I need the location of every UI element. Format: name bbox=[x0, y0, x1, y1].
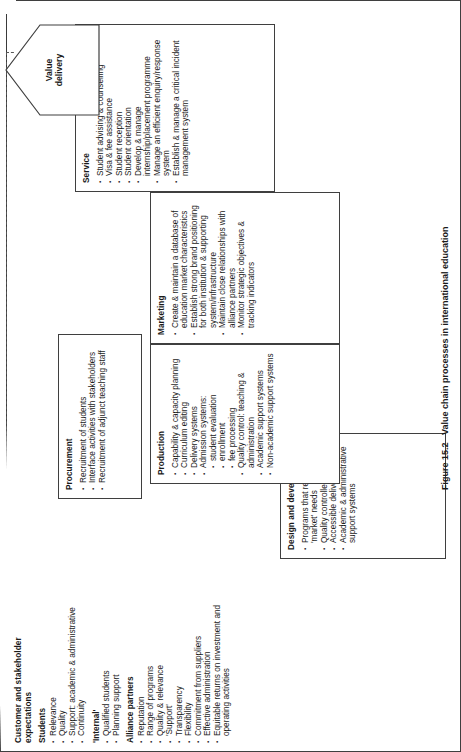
list-item: Qualified students bbox=[102, 595, 112, 743]
list-item: Monitor strategic objectives & tracking … bbox=[237, 200, 256, 335]
procurement-box: Procurement Recruitment of students Inte… bbox=[58, 334, 142, 499]
list-item: Create & maintain a database of educatio… bbox=[171, 200, 190, 335]
customer-group-heading: 'Internal' bbox=[92, 595, 102, 743]
procurement-box-title: Procurement bbox=[65, 342, 75, 490]
figure-canvas: Logistics Information stocks & flows Edu… bbox=[0, 0, 461, 752]
list-item: Non-academic support systems bbox=[266, 352, 276, 475]
customer-group-list: Qualified students Planning support bbox=[102, 595, 121, 743]
list-item: Manage an efficient enquiry/response sys… bbox=[153, 32, 172, 183]
list-item: Recruitment of students bbox=[79, 342, 89, 490]
figure-caption: Figure 15.2 Value chain processes in int… bbox=[440, 226, 450, 490]
procurement-list: Recruitment of students Interface activi… bbox=[79, 342, 108, 490]
list-item: Delivery systems bbox=[190, 352, 200, 475]
list-item: fee processing bbox=[228, 352, 238, 475]
list-item: Reputation bbox=[137, 595, 147, 743]
list-item: Maintain close relationships with allian… bbox=[218, 200, 237, 335]
list-item: Continuity bbox=[77, 595, 87, 743]
list-item: Planning support bbox=[112, 595, 122, 743]
customer-group-heading: Alliance partners bbox=[126, 595, 136, 743]
figure-caption-text: Value chain processes in international e… bbox=[440, 226, 450, 435]
list-item: Effective administration bbox=[203, 595, 213, 743]
list-item: Academic support systems bbox=[256, 352, 266, 475]
list-item: Capability & capacity planning bbox=[171, 352, 181, 475]
list-item: Support: academic & administrative bbox=[68, 595, 78, 743]
value-delivery-label: Valuedelivery bbox=[44, 24, 64, 116]
figure-page: Logistics Information stocks & flows Edu… bbox=[0, 0, 461, 752]
list-item: Establish & manage a critical incident m… bbox=[172, 32, 191, 183]
list-item: Establish strong brand positioning for b… bbox=[190, 200, 219, 335]
list-item: Quality & relevance bbox=[156, 595, 166, 743]
list-item: Interface activities with stakeholders bbox=[88, 342, 98, 490]
list-item: Commitment from suppliers bbox=[194, 595, 204, 743]
marketing-box-title: Marketing bbox=[157, 200, 167, 335]
customer-box-title: Customer and stakeholder expectations bbox=[14, 595, 33, 743]
production-list: Capability & capacity planning Curriculu… bbox=[171, 352, 276, 475]
list-item: Curriculum editing bbox=[180, 352, 190, 475]
marketing-list: Create & maintain a database of educatio… bbox=[171, 200, 257, 335]
production-box: Production Capability & capacity plannin… bbox=[150, 344, 340, 484]
list-item: enrollment bbox=[218, 352, 228, 475]
marketing-box: Marketing Create & maintain a database o… bbox=[150, 192, 340, 344]
list-item: Academic & administrative support system… bbox=[339, 441, 358, 550]
list-item: Quality bbox=[58, 595, 68, 743]
customer-group-list: Relevance Quality Support: academic & ad… bbox=[49, 595, 87, 743]
customer-expectations-box: Customer and stakeholder expectations St… bbox=[0, 587, 196, 752]
list-item: Student reception bbox=[115, 32, 125, 183]
list-item: Admission systems: bbox=[199, 352, 209, 475]
value-delivery-arrow: Valuedelivery bbox=[4, 24, 100, 116]
list-item: Relevance bbox=[49, 595, 59, 743]
customer-group-heading: Students bbox=[38, 595, 48, 743]
list-item: Range of programs bbox=[146, 595, 156, 743]
list-item: Flexibility bbox=[184, 595, 194, 743]
figure-number: Figure 15.2 bbox=[440, 442, 450, 490]
list-item: Transparency bbox=[175, 595, 185, 743]
list-item: 'Support' bbox=[165, 595, 175, 743]
production-box-title: Production bbox=[157, 352, 167, 475]
list-item: Recruitment of adjunct teaching staff bbox=[98, 342, 108, 490]
list-item: student evaluation bbox=[209, 352, 219, 475]
list-item: Quality control: teaching & administrati… bbox=[237, 352, 256, 475]
list-item: Student orientation bbox=[124, 32, 134, 183]
list-item: Develop & manage internship/placement pr… bbox=[134, 32, 153, 183]
list-item: Equitable returns on investment and oper… bbox=[213, 595, 232, 743]
service-list: Student advising & counselling Visa & fe… bbox=[96, 32, 191, 183]
service-box: Service Student advising & counselling V… bbox=[75, 24, 275, 192]
customer-group-list: Reputation Range of programs Quality & r… bbox=[137, 595, 232, 743]
list-item: Visa & fee assistance bbox=[105, 32, 115, 183]
